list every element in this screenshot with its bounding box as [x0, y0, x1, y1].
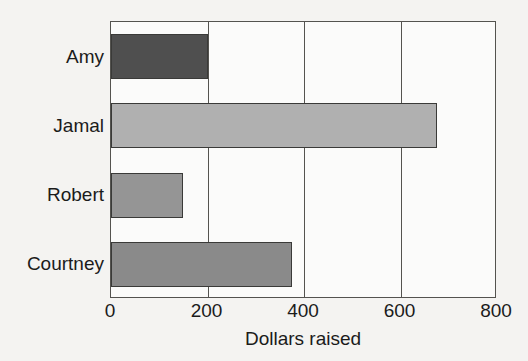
gridline-400: [304, 22, 305, 297]
y-axis-label-1: Jamal: [0, 115, 104, 134]
x-tick-label-0: 0: [105, 301, 116, 322]
gridline-600: [401, 22, 402, 297]
bar-courtney: [111, 242, 292, 287]
x-tick-label-3: 600: [384, 301, 416, 322]
bar-robert: [111, 173, 183, 218]
x-tick-label-1: 200: [191, 301, 223, 322]
bar-jamal: [111, 103, 437, 148]
y-axis-category-labels: Amy Jamal Robert Courtney: [0, 21, 104, 298]
plot-area: [110, 21, 496, 298]
bar-amy: [111, 34, 208, 79]
y-axis-label-2: Robert: [0, 185, 104, 204]
x-tick-label-2: 400: [287, 301, 319, 322]
bar-chart: Amy Jamal Robert Courtney 0 200 400 600 …: [0, 0, 528, 361]
x-tick-label-4: 800: [480, 301, 512, 322]
y-axis-label-0: Amy: [0, 46, 104, 65]
x-axis-tick-labels: 0 200 400 600 800: [110, 301, 496, 327]
y-axis-label-3: Courtney: [0, 254, 104, 273]
x-axis-title: Dollars raised: [110, 328, 496, 350]
